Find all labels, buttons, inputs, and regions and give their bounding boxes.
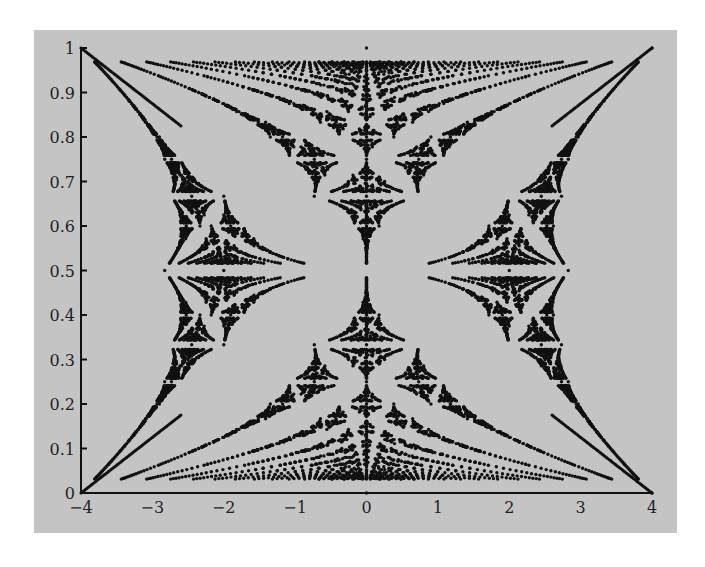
y-tick-label: 0.5 bbox=[50, 262, 75, 281]
y-tick-label: 0.6 bbox=[50, 217, 75, 236]
x-tick-label: 1 bbox=[433, 498, 443, 517]
y-tick-label: 0.7 bbox=[50, 173, 75, 192]
x-tick-label: −1 bbox=[283, 498, 307, 517]
chart-panel: 00.10.20.30.40.50.60.70.80.91 −4−3−2−101… bbox=[34, 30, 677, 533]
y-tick-label: 0.2 bbox=[50, 395, 75, 414]
data-points bbox=[79, 46, 653, 494]
x-tick-label: −2 bbox=[212, 498, 236, 517]
y-tick-label: 0.8 bbox=[50, 128, 75, 147]
y-tick-label: 0.1 bbox=[50, 440, 75, 459]
y-tick-label: 0.3 bbox=[50, 351, 75, 370]
x-tick-label: 0 bbox=[361, 498, 371, 517]
x-tick-label: 4 bbox=[647, 498, 657, 517]
y-tick-label: 0.4 bbox=[50, 306, 75, 325]
x-tick-label: 2 bbox=[504, 498, 514, 517]
x-tick-label: −3 bbox=[141, 498, 165, 517]
x-tick-label: −4 bbox=[69, 498, 93, 517]
scatter-plot: 00.10.20.30.40.50.60.70.80.91 −4−3−2−101… bbox=[34, 30, 677, 533]
y-tick-label: 0.9 bbox=[50, 84, 75, 103]
y-tick-label: 1 bbox=[65, 39, 75, 58]
x-axis-ticks: −4−3−2−101234 bbox=[69, 498, 657, 517]
x-tick-label: 3 bbox=[576, 498, 586, 517]
